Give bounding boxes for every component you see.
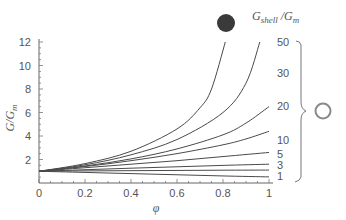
curve-label-20: 20 xyxy=(277,100,289,112)
curve-10 xyxy=(39,152,269,171)
x-tick-label: 0 xyxy=(36,187,42,199)
chart: 00.20.40.60.8124681012 50302010531 φ G/G… xyxy=(0,0,346,220)
y-tick-label: 6 xyxy=(25,107,31,119)
curve-label-1: 1 xyxy=(277,170,283,182)
curve-labels: 50302010531 xyxy=(277,36,289,182)
legend-title-main: G xyxy=(252,9,261,23)
legend-title: Gshell /Gm xyxy=(252,9,300,25)
curves xyxy=(39,42,269,177)
shell-particle-icon xyxy=(316,104,331,119)
curve-rigid xyxy=(39,42,225,171)
y-tick-label: 12 xyxy=(19,36,31,48)
y-axis-title-main: G/G xyxy=(3,111,17,132)
legend-title-sub2: m xyxy=(293,15,300,25)
x-axis-title: φ xyxy=(153,201,160,215)
rigid-particle-icon xyxy=(217,14,235,32)
x-tick-label: 0.8 xyxy=(215,187,230,199)
y-axis-title-sub: m xyxy=(9,104,19,111)
svg-text:G/Gm: G/Gm xyxy=(3,104,19,132)
curve-30 xyxy=(39,107,269,172)
curly-brace xyxy=(295,41,306,182)
x-tick-label: 0.2 xyxy=(77,187,92,199)
x-tick-label: 0.6 xyxy=(169,187,184,199)
x-tick-label: 1 xyxy=(266,187,272,199)
y-axis-title: G/Gm xyxy=(3,104,19,132)
y-tick-label: 4 xyxy=(25,130,31,142)
axes: 00.20.40.60.8124681012 xyxy=(19,36,273,199)
y-tick-label: 10 xyxy=(19,60,31,72)
curve-1 xyxy=(39,171,269,177)
legend-title-mid: /G xyxy=(278,9,293,23)
legend-title-sub1: shell xyxy=(261,15,278,25)
y-tick-label: 8 xyxy=(25,83,31,95)
curve-label-50: 50 xyxy=(277,36,289,48)
y-tick-label: 2 xyxy=(25,154,31,166)
x-tick-label: 0.4 xyxy=(123,187,138,199)
curve-label-30: 30 xyxy=(277,67,289,79)
curve-label-10: 10 xyxy=(277,134,289,146)
curve-50 xyxy=(39,42,260,171)
